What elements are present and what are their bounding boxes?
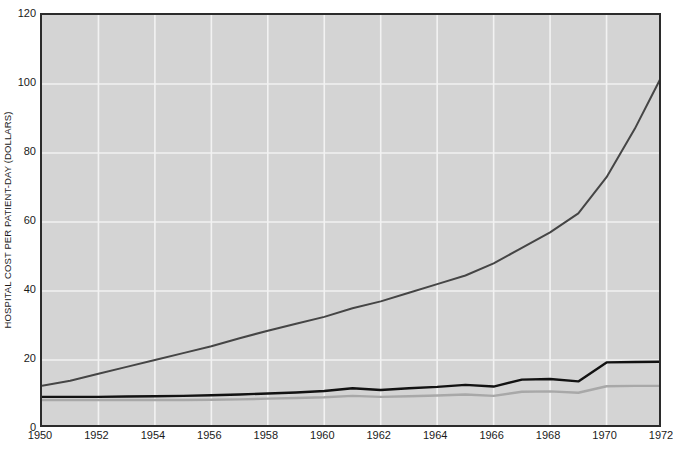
plot-area — [40, 13, 661, 427]
x-tick-label: 1956 — [197, 430, 221, 441]
x-tick-label: 1972 — [649, 430, 673, 441]
y-axis-tick-labels: 020406080100120 — [0, 0, 36, 454]
plot-svg — [42, 15, 661, 427]
x-tick-label: 1970 — [592, 430, 616, 441]
y-tick-label: 80 — [2, 146, 36, 157]
x-axis-tick-labels: 1950195219541956195819601962196419661968… — [0, 430, 671, 450]
x-tick-label: 1962 — [366, 430, 390, 441]
y-tick-label: 60 — [2, 215, 36, 226]
x-tick-label: 1964 — [423, 430, 447, 441]
x-tick-label: 1960 — [310, 430, 334, 441]
x-tick-label: 1958 — [254, 430, 278, 441]
y-tick-label: 100 — [2, 77, 36, 88]
y-tick-label: 20 — [2, 353, 36, 364]
y-tick-label: 120 — [2, 8, 36, 19]
x-tick-label: 1952 — [84, 430, 108, 441]
data-series-hospital-cost-per-patient-day — [42, 74, 661, 386]
x-tick-label: 1954 — [141, 430, 165, 441]
x-tick-label: 1966 — [479, 430, 503, 441]
x-tick-label: 1968 — [536, 430, 560, 441]
x-tick-label: 1950 — [28, 430, 52, 441]
y-tick-label: 40 — [2, 284, 36, 295]
